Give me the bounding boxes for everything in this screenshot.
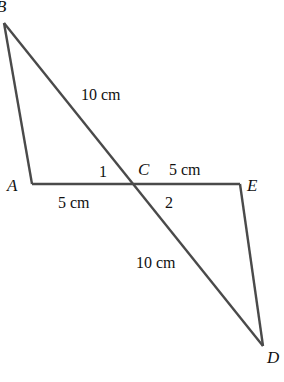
point-label-a: A	[6, 176, 18, 195]
measure-bc: 10 cm	[81, 86, 121, 103]
measure-ac: 5 cm	[58, 194, 90, 211]
angle-label-2: 2	[165, 194, 173, 211]
angle-label-1: 1	[99, 163, 107, 180]
point-label-d: D	[266, 348, 280, 367]
point-label-c: C	[138, 160, 150, 179]
point-label-b: B	[0, 0, 7, 16]
measure-cd: 10 cm	[136, 254, 176, 271]
measure-ce: 5 cm	[169, 161, 201, 178]
point-label-e: E	[246, 176, 258, 195]
segment-ab	[4, 23, 32, 184]
geometry-diagram: B A C E D 10 cm 5 cm 5 cm 10 cm 1 2	[0, 0, 284, 382]
